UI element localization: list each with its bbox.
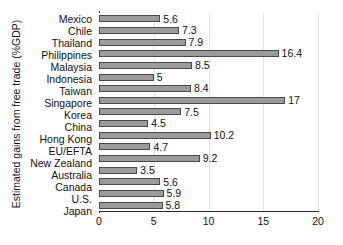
x-axis-tick-labels: 05101520 [99, 215, 318, 231]
bar-value-label: 8.5 [195, 60, 210, 71]
bar-row: 7.5 [99, 106, 318, 118]
bar [99, 155, 200, 162]
x-axis-tick-label: 20 [312, 215, 324, 227]
x-axis-tick-label: 5 [151, 215, 157, 227]
bar-value-label: 8.4 [194, 83, 209, 94]
bar-value-label: 16.4 [282, 48, 302, 59]
bar [99, 39, 186, 46]
bar [99, 15, 160, 22]
bar-row: 16.4 [99, 48, 318, 60]
bar-row: 4.7 [99, 141, 318, 153]
bar-value-label: 7.3 [182, 25, 197, 36]
bar [99, 50, 279, 57]
bar [99, 27, 179, 34]
plot-area: 5.67.37.916.48.558.4177.54.510.24.79.23.… [99, 13, 318, 211]
bar [99, 85, 191, 92]
bar-row: 4.5 [99, 118, 318, 130]
y-axis-tick-label: Taiwan [22, 85, 95, 97]
y-axis-tick-label: China [22, 121, 95, 133]
x-axis-line [99, 211, 319, 212]
bar-value-label: 3.5 [140, 165, 155, 176]
bar-value-label: 5 [157, 72, 163, 83]
y-axis-tick-label: Korea [22, 109, 95, 121]
bar-value-label: 4.5 [151, 118, 166, 129]
bar-value-label: 5.9 [167, 188, 182, 199]
bar-row: 17 [99, 94, 318, 106]
y-axis-tick-label: Hong Kong [22, 133, 95, 145]
bar-row: 8.5 [99, 60, 318, 72]
y-axis-tick-label: Japan [22, 205, 95, 217]
y-axis-tick-label: Indonesia [22, 73, 95, 85]
bar-row: 5 [99, 71, 318, 83]
y-axis-tick-label: Australia [22, 169, 95, 181]
y-axis-tick-label: Malaysia [22, 61, 95, 73]
bar [99, 108, 181, 115]
y-axis-tick-label: Chile [22, 25, 95, 37]
bar [99, 74, 154, 81]
bar [99, 178, 160, 185]
bar-row: 10.2 [99, 129, 318, 141]
bar-row: 8.4 [99, 83, 318, 95]
bar-row: 3.5 [99, 164, 318, 176]
bar [99, 190, 164, 197]
bar-value-label: 7.9 [189, 37, 204, 48]
bar-value-label: 7.5 [184, 107, 199, 118]
bar [99, 202, 163, 209]
y-axis-tick-labels: MexicoChileThailandPhilippinesMalaysiaIn… [22, 13, 95, 211]
bar [99, 167, 137, 174]
x-axis-tick-label: 0 [96, 215, 102, 227]
bar-value-label: 5.6 [163, 14, 178, 25]
bar-value-label: 17 [288, 95, 300, 106]
bar-chart: Estimated gains from free trade (%GDP) M… [0, 0, 343, 245]
y-axis-tick-label: Thailand [22, 37, 95, 49]
bar-series: 5.67.37.916.48.558.4177.54.510.24.79.23.… [99, 13, 318, 211]
bar [99, 132, 211, 139]
bar-row: 7.3 [99, 25, 318, 37]
y-axis-tick-label: EU/EFTA [22, 145, 95, 157]
y-axis-tick-label: Philippines [22, 49, 95, 61]
x-axis-tick-label: 15 [257, 215, 269, 227]
bar-row: 5.6 [99, 176, 318, 188]
gridline [318, 13, 319, 211]
bar-value-label: 5.8 [166, 200, 181, 211]
x-axis-tick-label: 10 [203, 215, 215, 227]
y-axis-tick-label: Singapore [22, 97, 95, 109]
bar [99, 120, 148, 127]
bar [99, 97, 285, 104]
bar-row: 9.2 [99, 153, 318, 165]
bar-value-label: 4.7 [153, 142, 168, 153]
bar-row: 7.9 [99, 36, 318, 48]
bar-row: 5.9 [99, 188, 318, 200]
y-axis-tick-label: U.S. [22, 193, 95, 205]
bar [99, 143, 150, 150]
bar-value-label: 5.6 [163, 177, 178, 188]
bar-row: 5.6 [99, 13, 318, 25]
bar [99, 62, 192, 69]
y-axis-tick-label: Mexico [22, 13, 95, 25]
y-axis-tick-label: New Zealand [22, 157, 95, 169]
bar-row: 5.8 [99, 199, 318, 211]
bar-value-label: 9.2 [203, 153, 218, 164]
bar-value-label: 10.2 [214, 130, 234, 141]
y-axis-tick-label: Canada [22, 181, 95, 193]
